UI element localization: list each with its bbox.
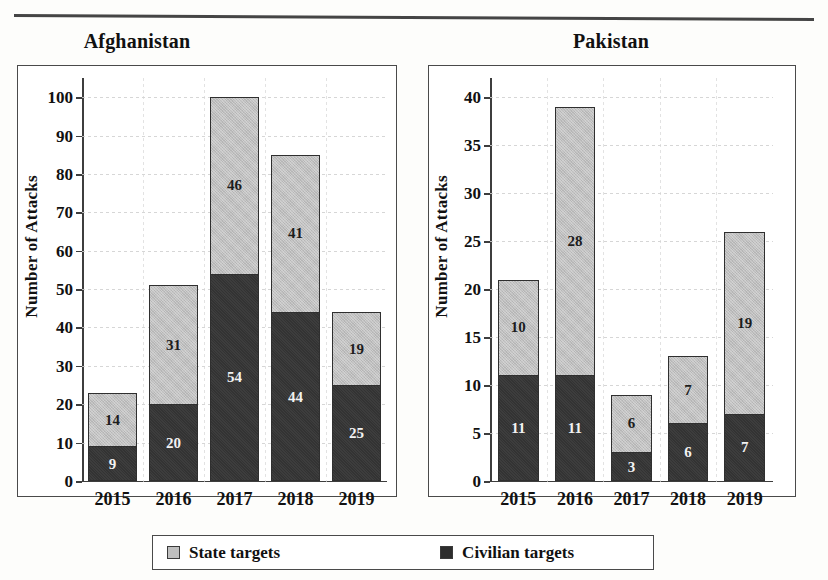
bar-segment-state-targets[interactable]: 41 — [271, 155, 320, 312]
y-axis-tick — [76, 443, 82, 445]
bar-segment-civilian-targets[interactable]: 20 — [149, 404, 198, 481]
bar-value-label: 25 — [349, 425, 364, 442]
bar-stack[interactable]: 197 — [724, 232, 765, 481]
y-axis-tick — [484, 241, 490, 243]
y-axis-tick-label: 0 — [473, 473, 482, 490]
bar-stack[interactable]: 1925 — [332, 312, 381, 481]
bar-value-label: 9 — [109, 456, 117, 473]
y-axis-tick — [76, 251, 82, 253]
bar-segment-state-targets[interactable]: 31 — [149, 285, 198, 404]
bar-segment-civilian-targets[interactable]: 7 — [724, 414, 765, 481]
y-axis-tick — [484, 481, 490, 483]
bar-segment-civilian-targets[interactable]: 54 — [210, 274, 259, 481]
bar-value-label: 7 — [741, 439, 749, 456]
y-axis-tick-label: 20 — [464, 281, 481, 298]
y-axis-tick-label: 30 — [56, 357, 73, 374]
grid-line — [490, 145, 773, 146]
bar-value-label: 41 — [288, 225, 303, 242]
x-axis-tick-label: 2016 — [557, 489, 593, 510]
bar-segment-civilian-targets[interactable]: 11 — [555, 375, 596, 481]
bar-segment-state-targets[interactable]: 19 — [724, 232, 765, 414]
y-axis-tick — [484, 289, 490, 291]
bar-segment-state-targets[interactable]: 6 — [611, 395, 652, 453]
legend-item-civilian-targets[interactable]: Civilian targets — [440, 543, 574, 563]
bar-segment-civilian-targets[interactable]: 25 — [332, 385, 381, 481]
bar-stack[interactable]: 2811 — [555, 107, 596, 481]
grid-line-vertical — [660, 78, 661, 482]
bar-stack[interactable]: 149 — [88, 393, 137, 481]
bar-stack[interactable]: 4654 — [210, 97, 259, 481]
bar-segment-civilian-targets[interactable]: 6 — [668, 423, 709, 481]
grid-line-vertical — [603, 78, 604, 482]
x-axis-tick-label: 2018 — [278, 489, 314, 510]
bar-value-label: 6 — [628, 415, 636, 432]
bar-value-label: 6 — [684, 444, 692, 461]
bar-segment-state-targets[interactable]: 46 — [210, 97, 259, 274]
y-axis-tick — [484, 337, 490, 339]
x-axis-tick-label: 2016 — [156, 489, 192, 510]
grid-line — [490, 193, 773, 194]
grid-line-vertical — [326, 78, 327, 482]
y-axis-tick — [76, 212, 82, 214]
bar-stack[interactable]: 76 — [668, 356, 709, 481]
y-axis-tick-label: 5 — [473, 425, 482, 442]
chart-panel-afghanistan: Afghanistan Number of Attacks 0102030405… — [0, 0, 414, 580]
bar-value-label: 46 — [227, 177, 242, 194]
y-axis-tick — [484, 145, 490, 147]
bar-stack[interactable]: 1011 — [498, 280, 539, 481]
x-axis-tick-label: 2015 — [500, 489, 536, 510]
y-axis-tick-label: 0 — [65, 473, 74, 490]
y-axis-tick-label: 40 — [464, 89, 481, 106]
bar-stack[interactable]: 63 — [611, 395, 652, 481]
bar-value-label: 11 — [511, 420, 525, 437]
y-axis-tick — [76, 136, 82, 138]
x-axis-tick-label: 2018 — [670, 489, 706, 510]
y-axis-tick — [484, 193, 490, 195]
y-axis-tick — [76, 97, 82, 99]
bar-value-label: 31 — [166, 337, 181, 354]
square-dark-swatch-icon — [440, 546, 453, 559]
y-axis-label-afghanistan: Number of Attacks — [22, 175, 42, 318]
bar-segment-civilian-targets[interactable]: 3 — [611, 452, 652, 481]
bar-segment-state-targets[interactable]: 7 — [668, 356, 709, 423]
y-axis-tick — [76, 366, 82, 368]
x-axis-tick-label: 2017 — [217, 489, 253, 510]
bar-segment-state-targets[interactable]: 10 — [498, 280, 539, 376]
bar-value-label: 3 — [628, 459, 636, 476]
y-axis-tick — [484, 97, 490, 99]
chart-title-afghanistan: Afghanistan — [0, 30, 344, 53]
y-axis-tick-label: 20 — [56, 396, 73, 413]
grid-line-vertical — [547, 78, 548, 482]
y-axis-tick-label: 70 — [56, 204, 73, 221]
bar-segment-civilian-targets[interactable]: 44 — [271, 312, 320, 481]
y-axis-line — [82, 78, 84, 482]
grid-line-vertical — [265, 78, 266, 482]
y-axis-tick-label: 50 — [56, 281, 73, 298]
bar-segment-state-targets[interactable]: 14 — [88, 393, 137, 447]
bar-segment-state-targets[interactable]: 28 — [555, 107, 596, 376]
bar-segment-civilian-targets[interactable]: 9 — [88, 446, 137, 481]
y-axis-tick — [76, 481, 82, 483]
y-axis-tick-label: 90 — [56, 127, 73, 144]
bar-segment-state-targets[interactable]: 19 — [332, 312, 381, 385]
x-axis-tick-label: 2019 — [727, 489, 763, 510]
legend-item-state-targets[interactable]: State targets — [167, 543, 280, 563]
y-axis-tick-label: 100 — [48, 89, 74, 106]
y-axis-tick-label: 40 — [56, 319, 73, 336]
bar-stack[interactable]: 4144 — [271, 155, 320, 481]
bar-stack[interactable]: 3120 — [149, 285, 198, 481]
square-light-swatch-icon — [167, 546, 180, 559]
y-axis-label-pakistan: Number of Attacks — [432, 175, 452, 318]
grid-line-vertical — [716, 78, 717, 482]
legend-label-civilian-targets: Civilian targets — [462, 543, 574, 563]
plot-area-afghanistan: 0102030405060708090100149201531202016465… — [82, 78, 387, 482]
y-axis-tick-label: 15 — [464, 329, 481, 346]
bar-value-label: 19 — [737, 315, 752, 332]
y-axis-tick-label: 25 — [464, 233, 481, 250]
plot-area-pakistan: 0510152025303540101120152811201663201776… — [490, 78, 773, 482]
y-axis-tick — [76, 174, 82, 176]
grid-line — [490, 97, 773, 98]
bar-segment-civilian-targets[interactable]: 11 — [498, 375, 539, 481]
y-axis-tick — [76, 289, 82, 291]
y-axis-line — [490, 78, 492, 482]
